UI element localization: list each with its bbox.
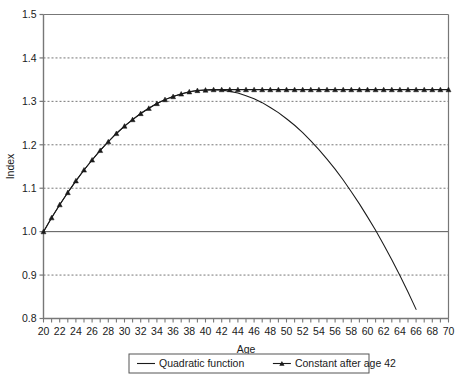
- x-tick-label: 70: [443, 325, 455, 337]
- series-marker: [154, 101, 159, 106]
- x-tick-label: 24: [70, 325, 82, 337]
- x-tick-label: 34: [151, 325, 163, 337]
- x-tick-label: 40: [200, 325, 212, 337]
- y-tick-label: 0.8: [22, 312, 37, 324]
- x-tick-label: 64: [394, 325, 406, 337]
- x-tick-label: 30: [119, 325, 131, 337]
- y-tick-label: 1.1: [22, 182, 37, 194]
- x-tick-label: 48: [264, 325, 276, 337]
- series-marker: [146, 106, 151, 111]
- y-tick-label: 1.4: [22, 52, 37, 64]
- x-tick-label: 66: [410, 325, 422, 337]
- x-tick-label: 54: [313, 325, 325, 337]
- x-tick-label: 20: [38, 325, 50, 337]
- series-marker: [49, 215, 54, 220]
- x-tick-label: 26: [86, 325, 98, 337]
- series-marker: [138, 111, 143, 116]
- x-tick-label: 58: [345, 325, 357, 337]
- x-tick-label: 22: [54, 325, 66, 337]
- series-line-2: [44, 90, 449, 232]
- x-tick-label: 38: [183, 325, 195, 337]
- x-tick-label: 32: [135, 325, 147, 337]
- y-tick-label: 1.5: [22, 8, 37, 20]
- legend-label-1: Quadratic function: [159, 357, 244, 369]
- x-axis-title: Age: [237, 343, 256, 355]
- legend-label-2: Constant after age 42: [295, 357, 396, 369]
- index-by-age-line-chart: 0.80.91.01.11.21.31.41.52022242628303234…: [0, 0, 460, 381]
- x-tick-label: 62: [378, 325, 390, 337]
- x-tick-label: 44: [232, 325, 244, 337]
- y-tick-label: 1.0: [22, 225, 37, 237]
- y-tick-label: 1.2: [22, 139, 37, 151]
- x-tick-label: 52: [297, 325, 309, 337]
- chart-container: 0.80.91.01.11.21.31.41.52022242628303234…: [0, 0, 460, 381]
- x-tick-label: 42: [216, 325, 228, 337]
- y-axis-title: Index: [4, 153, 16, 179]
- x-tick-label: 28: [102, 325, 114, 337]
- x-tick-label: 56: [329, 325, 341, 337]
- x-tick-label: 50: [281, 325, 293, 337]
- x-tick-label: 36: [167, 325, 179, 337]
- x-tick-label: 60: [362, 325, 374, 337]
- x-tick-label: 68: [426, 325, 438, 337]
- y-tick-label: 0.9: [22, 269, 37, 281]
- series-line-1: [44, 90, 417, 310]
- x-tick-label: 46: [248, 325, 260, 337]
- y-tick-label: 1.3: [22, 95, 37, 107]
